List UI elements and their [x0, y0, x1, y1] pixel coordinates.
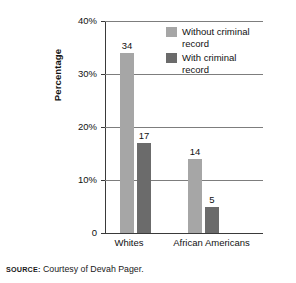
y-tick-label-40: 40% [57, 15, 97, 26]
legend-label-without-criminal-record: Without criminal record [182, 26, 264, 49]
y-tick-label-20: 20% [57, 121, 97, 132]
tick-mark-10 [101, 180, 105, 181]
bar-value-label-aa-with: 5 [209, 195, 214, 205]
bar-african-americans-with-criminal-record[interactable]: 5 [205, 207, 219, 234]
legend-item-with-criminal-record[interactable]: With criminal record [166, 52, 266, 75]
tick-mark-40 [101, 21, 105, 22]
bar-value-label-aa-without: 14 [190, 147, 201, 157]
x-axis-label-african-americans: African Americans [160, 237, 263, 248]
x-axis-label-whites: Whites [101, 237, 157, 248]
bar-value-label-whites-with: 17 [139, 131, 150, 141]
y-tick-label-0: 0 [57, 227, 97, 238]
legend-label-with-criminal-record: With criminal record [182, 52, 264, 75]
y-tick-label-10: 10% [57, 174, 97, 185]
bar-value-label-whites-without: 34 [122, 41, 133, 51]
source-line: SOURCE: Courtesy of Devah Pager. [6, 264, 144, 275]
gridline-40 [105, 21, 263, 22]
tick-mark-20 [101, 127, 105, 128]
tick-mark-0 [101, 233, 105, 234]
bar-african-americans-without-criminal-record[interactable]: 14 [188, 159, 202, 233]
tick-mark-30 [101, 74, 105, 75]
bar-chart-figure: Percentage 40% 30% 20% 10% [0, 0, 296, 283]
source-label: SOURCE: [6, 265, 41, 274]
legend-swatch-with-criminal-record [166, 53, 177, 63]
legend-swatch-without-criminal-record [166, 27, 177, 37]
chart-legend: Without criminal record With criminal re… [166, 26, 266, 78]
bar-whites-with-criminal-record[interactable]: 17 [137, 143, 151, 233]
bar-whites-without-criminal-record[interactable]: 34 [120, 53, 134, 233]
y-tick-label-30: 30% [57, 68, 97, 79]
legend-item-without-criminal-record[interactable]: Without criminal record [166, 26, 266, 49]
x-axis-baseline [105, 233, 263, 234]
source-text: Courtesy of Devah Pager. [43, 264, 144, 274]
